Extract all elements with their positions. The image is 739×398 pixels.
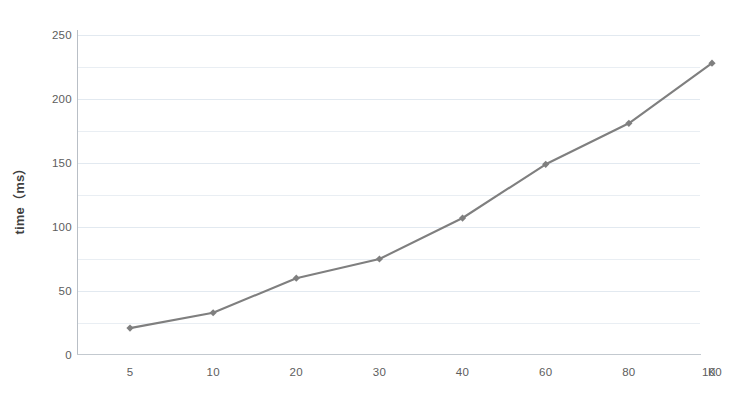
data-point-marker <box>126 325 133 332</box>
data-point-marker <box>293 275 300 282</box>
data-point-marker <box>210 309 217 316</box>
data-point-marker <box>376 255 383 262</box>
chart-figure: time（ms） 050100150200250 510203040608010… <box>0 0 739 398</box>
series-polyline <box>130 63 712 328</box>
series-line-time <box>0 0 739 398</box>
